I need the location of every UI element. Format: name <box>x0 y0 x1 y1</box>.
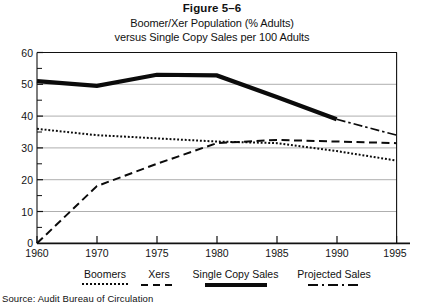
legend-entry-single-copy-sales[interactable]: Single Copy Sales <box>181 268 290 287</box>
legend-swatch-dashed-icon <box>141 283 177 287</box>
line-chart-plot: 60 50 40 30 20 10 0 1960 1970 1975 1980 … <box>0 0 424 268</box>
x-axis-label-1970: 1970 <box>85 247 109 259</box>
legend-label-boomers: Boomers <box>74 268 136 280</box>
legend-swatch-solid-thick-icon <box>205 283 267 287</box>
y-axis-tick-labels: 60 50 40 30 20 10 0 <box>21 47 33 250</box>
chart-legend: Boomers Xers Single Copy Sales Projected… <box>0 268 424 294</box>
x-axis-ticks <box>37 236 397 243</box>
legend-label-xers: Xers <box>139 268 179 280</box>
legend-entry-xers[interactable]: Xers <box>139 268 179 287</box>
series-line-projected-sales <box>337 119 397 135</box>
x-axis-label-1995: 1995 <box>383 247 407 259</box>
x-axis-label-1985: 1985 <box>265 247 289 259</box>
legend-entry-projected-sales[interactable]: Projected Sales <box>288 268 380 287</box>
series-line-single-copy-sales <box>37 75 337 120</box>
y-axis-label-30: 30 <box>21 142 33 154</box>
y-axis-label-20: 20 <box>21 174 33 186</box>
gridlines <box>37 84 397 211</box>
y-axis-label-10: 10 <box>21 206 33 218</box>
y-axis-label-60: 60 <box>21 47 33 59</box>
x-axis-label-1975: 1975 <box>145 247 169 259</box>
series-line-xers <box>37 140 397 243</box>
y-axis-label-50: 50 <box>21 78 33 90</box>
data-series-group <box>37 75 397 244</box>
source-note: Source: Audit Bureau of Circulation <box>2 293 153 304</box>
series-line-boomers <box>37 129 397 161</box>
legend-entry-boomers[interactable]: Boomers <box>74 268 136 289</box>
x-axis-tick-labels: 1960 1970 1975 1980 1985 1990 1995 <box>25 247 407 259</box>
figure-container: Figure 5–6 Boomer/Xer Population (% Adul… <box>0 0 424 307</box>
legend-swatch-dotted-icon <box>82 283 128 289</box>
x-axis-label-1990: 1990 <box>325 247 349 259</box>
legend-swatch-dash-dot-icon <box>308 283 360 287</box>
y-axis-label-40: 40 <box>21 110 33 122</box>
x-axis-label-1960: 1960 <box>25 247 49 259</box>
x-axis-label-1980: 1980 <box>205 247 229 259</box>
legend-label-single-copy-sales: Single Copy Sales <box>181 268 290 280</box>
y-axis-ticks <box>37 53 43 228</box>
legend-label-projected-sales: Projected Sales <box>288 268 380 280</box>
